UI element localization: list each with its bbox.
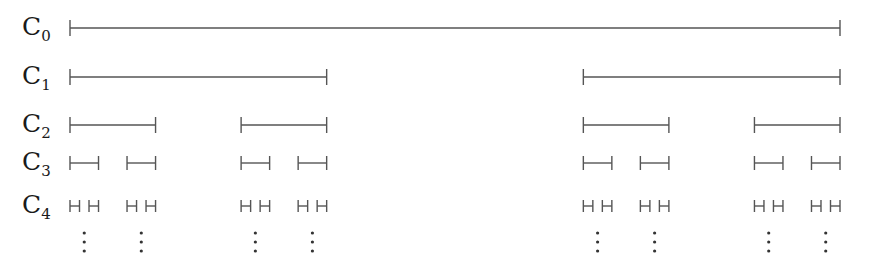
cantor-diagram	[0, 0, 874, 271]
cantor-level-4	[70, 200, 840, 212]
cantor-level-2	[70, 117, 840, 133]
cantor-level-3	[70, 156, 840, 170]
cantor-level-1	[70, 69, 840, 85]
continuation-ellipsis	[83, 231, 828, 252]
cantor-level-0	[70, 20, 840, 36]
